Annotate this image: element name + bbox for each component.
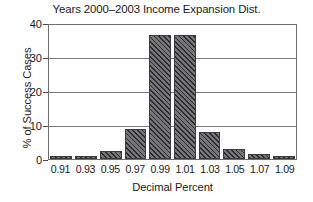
bar-slot [123,25,148,159]
bar[interactable] [75,156,97,159]
y-tick-label: 40 [16,18,42,30]
bar-slot [98,25,123,159]
bar-slot [173,25,198,159]
bar[interactable] [273,156,295,159]
x-tick-label: 0.93 [73,163,98,175]
plot-area [48,24,297,160]
x-tick-label: 0.99 [148,163,173,175]
y-tick-label: 0 [16,154,42,166]
bar[interactable] [100,151,122,159]
x-axis-label: Decimal Percent [48,181,297,193]
bar[interactable] [149,35,171,159]
bar-slot [148,25,173,159]
bar-slot [247,25,272,159]
x-tick-label: 1.01 [173,163,198,175]
chart-title: Years 2000–2003 Income Expansion Dist. [0,3,313,15]
bar-slot [271,25,296,159]
bar[interactable] [199,132,221,159]
bar[interactable] [174,35,196,159]
bar[interactable] [223,149,245,159]
x-axis-tick-labels: 0.91 0.93 0.95 0.97 0.99 1.01 1.03 1.05 … [48,163,297,175]
histogram-figure: Years 2000–2003 Income Expansion Dist. %… [0,0,313,202]
bar[interactable] [248,154,270,159]
x-tick-label: 1.09 [272,163,297,175]
y-tick-label: 30 [16,52,42,64]
y-tick-mark [43,160,48,161]
y-axis-tick-labels: 40 30 20 10 0 [16,0,42,202]
x-tick-label: 1.03 [197,163,222,175]
bar-slot [197,25,222,159]
bar-series [49,25,296,159]
x-tick-label: 0.95 [98,163,123,175]
bar[interactable] [50,156,72,159]
bar[interactable] [125,129,147,159]
x-tick-label: 1.05 [222,163,247,175]
y-tick-label: 10 [16,120,42,132]
x-tick-label: 0.97 [123,163,148,175]
bar-slot [49,25,74,159]
x-tick-label: 1.07 [247,163,272,175]
bar-slot [222,25,247,159]
bar-slot [74,25,99,159]
y-tick-label: 20 [16,86,42,98]
x-tick-label: 0.91 [48,163,73,175]
